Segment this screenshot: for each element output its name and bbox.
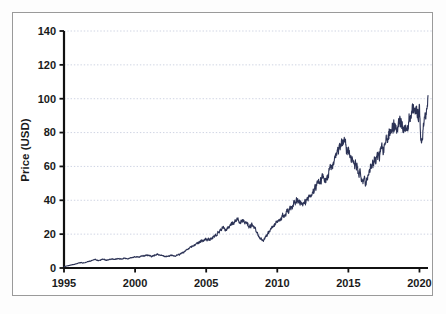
x-tick-label-2000: 2000 [123,277,147,289]
y-tick-labels: 020406080100120140 [38,25,56,274]
x-tick-label-1995: 1995 [52,277,76,289]
x-tick-label-2020: 2020 [407,277,431,289]
y-tick-label-0: 0 [50,262,56,274]
y-tick-label-140: 140 [38,25,56,37]
y-tick-label-20: 20 [44,228,56,240]
y-tick-label-40: 40 [44,194,56,206]
x-tick-labels: 199520002005201020152020 [52,277,432,289]
y-tick-label-60: 60 [44,160,56,172]
price-line-chart: 199520002005201020152020 020406080100120… [0,0,446,314]
y-tick-label-120: 120 [38,59,56,71]
x-tick-label-2010: 2010 [265,277,289,289]
figure-root: 199520002005201020152020 020406080100120… [0,0,446,314]
gridlines-group [64,31,432,234]
x-tick-label-2005: 2005 [194,277,218,289]
y-axis-title: Price (USD) [19,118,31,181]
y-tick-label-100: 100 [38,93,56,105]
x-tick-label-2015: 2015 [336,277,360,289]
y-tick-label-80: 80 [44,126,56,138]
price-series-line [64,96,428,267]
